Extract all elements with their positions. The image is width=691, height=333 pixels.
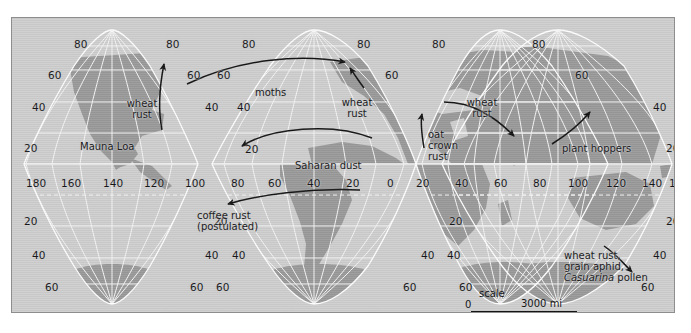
graticule-label-lon-60e: 60 xyxy=(494,178,508,189)
scale-miles-label: 3000 mi xyxy=(521,298,562,309)
graticule-label-lat-20-lobe2-left: 20 xyxy=(245,144,259,155)
map-scale: scale 0 3000 mi 0 4000 km xyxy=(465,297,590,313)
graticule-label-lat-s80-lobe2-right: 80 xyxy=(282,312,296,313)
annotation-oat-crown-rust-line-3: rust xyxy=(428,151,458,162)
graticule-label-lon-140w: 140 xyxy=(103,178,123,189)
graticule-label-lat-40-lobe3-right: 40 xyxy=(653,102,667,113)
annotation-saharan-dust-line-1: Saharan dust xyxy=(295,161,362,172)
scale-bar-graphic xyxy=(471,311,577,313)
graticule-label-lat-s80-lobe3-right: 80 xyxy=(449,312,463,313)
graticule-label-lon-60w: 60 xyxy=(268,178,282,189)
graticule-label-lat-s40-lobe2-right: 40 xyxy=(421,250,435,261)
graticule-label-lat-20-lobe3-right: 20 xyxy=(666,143,675,154)
annotation-moths: moths xyxy=(255,88,286,99)
annotation-wheat-rust-europe-line-2: rust xyxy=(342,108,373,119)
scale-zero-miles: 0 xyxy=(465,299,471,310)
annotation-australia-dispersal: wheat rust,grain aphid,Casuarina pollen xyxy=(564,250,648,284)
graticule-label-lat-s60-lobe1-left: 60 xyxy=(45,282,59,293)
annotation-saharan-dust: Saharan dust xyxy=(295,161,362,172)
graticule-label-lat-s40-lobe2-left: 40 xyxy=(232,250,246,261)
annotation-wheat-rust-north-america: wheatrust xyxy=(127,98,158,120)
annotation-coffee-rust: coffee rust(postulated) xyxy=(197,210,258,232)
annotation-australia-dispersal-italic-term: Casuarina xyxy=(564,272,614,283)
annotation-wheat-rust-asia-line-2: rust xyxy=(467,108,498,119)
graticule-label-lat-80-lobe1-left: 80 xyxy=(74,39,88,50)
graticule-label-lat-s80-lobe1-right: 80 xyxy=(164,312,178,313)
graticule-label-lat-40-lobe1-left: 40 xyxy=(32,102,46,113)
graticule-label-lat-60-lobe1-left: 60 xyxy=(48,70,62,81)
scale-label: scale xyxy=(479,288,505,299)
graticule-label-lat-s20-lobe3-left: 20 xyxy=(449,216,463,227)
graticule-label-lat-20-lobe1-left: 20 xyxy=(24,143,38,154)
graticule-label-lat-80-lobe3-left: 80 xyxy=(432,39,446,50)
annotation-wheat-rust-europe-line-1: wheat xyxy=(342,97,373,108)
graticule-label-lon-100w: 100 xyxy=(185,178,205,189)
graticule-label-lat-s20-lobe3-right: 20 xyxy=(666,216,675,227)
annotation-coffee-rust-line-1: coffee rust xyxy=(197,210,258,221)
annotation-mauna-loa: Mauna Loa xyxy=(80,142,134,153)
annotation-oat-crown-rust: oatcrownrust xyxy=(428,129,458,163)
graticule-label-lat-s80-lobe4-left: 80 xyxy=(587,312,601,313)
graticule-label-lat-80-lobe2-left: 80 xyxy=(242,39,256,50)
graticule-label-lat-s40-lobe3-right: 40 xyxy=(653,250,667,261)
annotation-plant-hoppers: plant hoppers xyxy=(562,144,631,155)
graticule-label-lon-20w: 20 xyxy=(346,178,360,189)
arrow-oat-crown-rust xyxy=(421,114,424,148)
graticule-label-lat-s60-lobe3-right: 60 xyxy=(641,282,655,293)
annotation-mauna-loa-line-1: Mauna Loa xyxy=(80,142,134,153)
annotation-australia-dispersal-line-2: grain aphid, xyxy=(564,261,648,272)
world-map: 8080808080806060606060404040402020202020… xyxy=(11,17,675,313)
graticule-label-lat-60-lobe3-right: 60 xyxy=(575,70,589,81)
graticule-label-lat-60-lobe2-right: 60 xyxy=(385,70,399,81)
annotation-wheat-rust-asia: wheatrust xyxy=(467,97,498,119)
graticule-label-lat-s60-lobe2-left: 60 xyxy=(216,282,230,293)
graticule-label-lon-120w: 120 xyxy=(144,178,164,189)
graticule-label-lon-40w: 40 xyxy=(307,178,321,189)
graticule-label-lon-40e: 40 xyxy=(455,178,469,189)
annotation-wheat-rust-asia-line-1: wheat xyxy=(467,97,498,108)
graticule-label-lon-160e: 160 xyxy=(669,178,675,189)
graticule-label-lat-80-lobe1-right: 80 xyxy=(166,39,180,50)
graticule-label-lat-80-lobe2-right: 80 xyxy=(357,39,371,50)
graticule-label-lat-s80-lobe4-right: 80 xyxy=(662,312,675,313)
graticule-label-lat-s20-lobe1-left: 20 xyxy=(24,216,38,227)
graticule-label-lat-s40-lobe1-right: 40 xyxy=(205,250,219,261)
graticule-label-lon-80e: 80 xyxy=(533,178,547,189)
graticule-label-lat-60-lobe1-right: 60 xyxy=(187,70,201,81)
graticule-label-lat-40-lobe2-left: 40 xyxy=(237,102,251,113)
annotation-wheat-rust-north-america-line-2: rust xyxy=(127,109,158,120)
annotation-oat-crown-rust-line-2: crown xyxy=(428,140,458,151)
map-figure: 8080808080806060606060404040402020202020… xyxy=(0,0,691,333)
annotation-coffee-rust-line-2: (postulated) xyxy=(197,221,258,232)
graticule-label-lat-s60-lobe3-left: 60 xyxy=(459,282,473,293)
annotation-oat-crown-rust-line-1: oat xyxy=(428,129,458,140)
graticule-label-lon-0: 0 xyxy=(387,178,394,189)
annotation-wheat-rust-north-america-line-1: wheat xyxy=(127,98,158,109)
graticule-label-lon-80w: 80 xyxy=(231,178,245,189)
annotation-plant-hoppers-line-1: plant hoppers xyxy=(562,144,631,155)
graticule-label-lon-140e: 140 xyxy=(642,178,662,189)
graticule-label-lat-s40-lobe1-left: 40 xyxy=(32,250,46,261)
graticule-label-lon-160w: 160 xyxy=(61,178,81,189)
graticule-label-lat-s80-lobe3-left: 80 xyxy=(367,312,381,313)
graticule-label-lat-s80-lobe1-left: 80 xyxy=(69,312,83,313)
graticule-label-lat-s80-lobe2-left: 80 xyxy=(222,312,236,313)
graticule-label-lon-180w: 180 xyxy=(26,178,46,189)
annotation-wheat-rust-europe: wheatrust xyxy=(342,97,373,119)
annotation-australia-dispersal-line-1: wheat rust, xyxy=(564,250,648,261)
graticule-label-lat-s60-lobe2-right: 60 xyxy=(403,282,417,293)
graticule-label-lat-s40-lobe3-left: 40 xyxy=(447,250,461,261)
annotation-australia-dispersal-line-3: Casuarina pollen xyxy=(564,272,648,283)
graticule-label-lat-80-lobe3-right: 80 xyxy=(532,39,546,50)
annotation-moths-line-1: moths xyxy=(255,88,286,99)
graticule-label-lon-20e: 20 xyxy=(416,178,430,189)
graticule-label-lat-60-lobe2-left: 60 xyxy=(217,70,231,81)
graticule-label-lat-40-lobe1-right: 40 xyxy=(205,102,219,113)
graticule-label-lon-100e: 100 xyxy=(568,178,588,189)
graticule-label-lat-s60-lobe1-right: 60 xyxy=(190,282,204,293)
graticule-label-lon-120e: 120 xyxy=(606,178,626,189)
